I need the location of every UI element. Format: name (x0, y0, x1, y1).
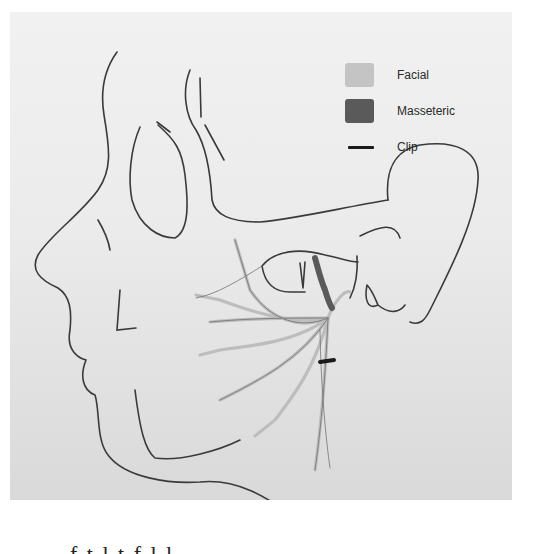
arch-line (360, 227, 400, 238)
facial-nerve (196, 240, 350, 470)
caption-text: f t l t f l l (0, 543, 533, 554)
legend-item-facial: Facial (345, 57, 455, 93)
legend: Facial Masseteric Clip (345, 57, 455, 165)
masseteric-nerve (315, 258, 332, 308)
clip-marker (320, 360, 334, 362)
figure-caption-cropped: f t l t f l l (0, 543, 533, 554)
legend-item-clip: Clip (345, 129, 455, 165)
ear-outline (387, 144, 478, 323)
legend-label: Facial (397, 68, 429, 82)
legend-item-masseteric: Masseteric (345, 93, 455, 129)
orbit-outline (130, 125, 187, 238)
legend-label: Masseteric (397, 104, 455, 118)
sigmoid-notch (262, 251, 358, 292)
masseteric-swatch-icon (345, 99, 374, 123)
facial-swatch-icon (345, 63, 374, 87)
face-profile-outline (35, 52, 330, 500)
nostril-outline (98, 220, 136, 330)
tragus-outline (366, 285, 405, 311)
clip-line-icon (348, 146, 374, 149)
mandible-line (135, 390, 240, 459)
legend-label: Clip (397, 140, 418, 154)
anatomy-figure: Facial Masseteric Clip (10, 12, 512, 500)
coronoid-lines (300, 262, 305, 288)
